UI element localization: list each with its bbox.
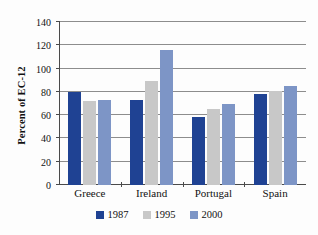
bar xyxy=(284,86,297,185)
plot-inner: 020406080100120140 xyxy=(59,22,306,185)
legend-item: 1987 xyxy=(96,209,129,220)
bar-group xyxy=(59,22,121,185)
legend-item: 2000 xyxy=(190,209,223,220)
bar-group xyxy=(244,22,306,185)
x-axis-tick-mark xyxy=(121,182,122,187)
y-axis-tick-label: 0 xyxy=(46,180,51,191)
bar-chart: Percent of EC-12 020406080100120140 Gree… xyxy=(0,0,318,235)
bar xyxy=(222,104,235,186)
plot-area: 020406080100120140 xyxy=(59,22,306,185)
legend-label: 1995 xyxy=(155,209,176,220)
bars-layer xyxy=(59,22,306,185)
x-axis-category-label: Portugal xyxy=(183,187,245,199)
y-axis-tick-label: 40 xyxy=(41,133,51,144)
bar xyxy=(130,100,143,185)
legend: 198719952000 xyxy=(0,209,318,220)
legend-swatch xyxy=(96,211,104,219)
legend-label: 2000 xyxy=(202,209,223,220)
legend-label: 1987 xyxy=(108,209,129,220)
y-axis-tick-label: 20 xyxy=(41,156,51,167)
x-axis-tick-mark xyxy=(183,182,184,187)
legend-swatch xyxy=(143,211,151,219)
x-axis-category-label: Ireland xyxy=(121,187,183,199)
y-axis-tick-label: 140 xyxy=(36,17,51,28)
bar xyxy=(160,50,173,185)
bar xyxy=(192,117,205,185)
y-axis-tick-label: 80 xyxy=(41,86,51,97)
bar xyxy=(68,92,81,185)
bar xyxy=(83,101,96,185)
bar xyxy=(98,100,111,185)
x-axis-category-labels: GreeceIrelandPortugalSpain xyxy=(59,187,306,199)
legend-item: 1995 xyxy=(143,209,176,220)
y-axis-tick-label: 60 xyxy=(41,110,51,121)
bar xyxy=(269,91,282,185)
y-axis-title: Percent of EC-12 xyxy=(16,41,27,171)
y-axis-tick-label: 120 xyxy=(36,40,51,51)
bar xyxy=(145,81,158,185)
bar-group xyxy=(183,22,245,185)
x-axis-category-label: Greece xyxy=(59,187,121,199)
bar xyxy=(207,109,220,185)
x-axis-tick-mark xyxy=(244,182,245,187)
x-axis-category-label: Spain xyxy=(244,187,306,199)
y-axis-tick-label: 100 xyxy=(36,63,51,74)
bar xyxy=(254,94,267,185)
legend-swatch xyxy=(190,211,198,219)
bar-group xyxy=(121,22,183,185)
